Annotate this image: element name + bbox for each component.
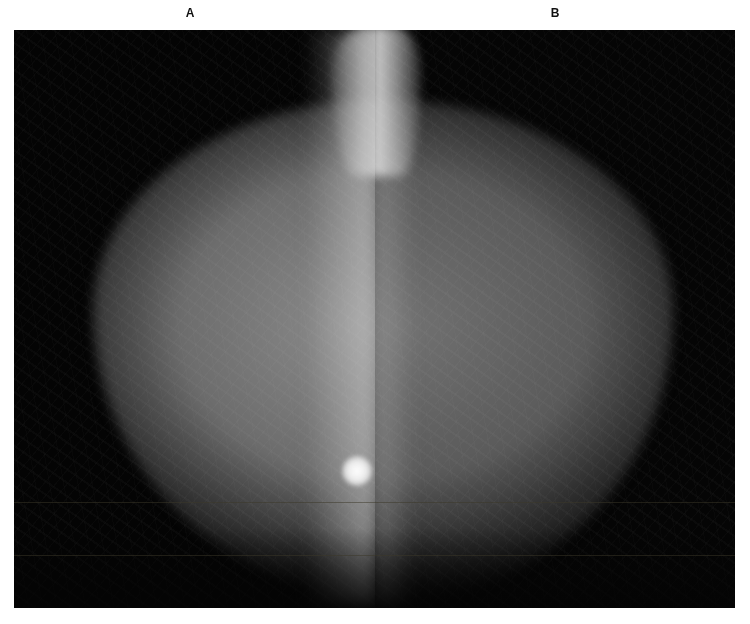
mass-lesion: [342, 456, 372, 486]
bottom-shade-a: [14, 528, 375, 608]
bottom-shade-b: [375, 528, 735, 608]
panel-label-a: A: [180, 6, 200, 20]
mammogram-figure: [14, 30, 735, 608]
fibroglandular-texture-a: [14, 30, 375, 608]
mammogram-panel-b: [375, 30, 735, 608]
mammogram-panel-a: [14, 30, 375, 608]
scan-artifact-line: [14, 555, 735, 556]
panel-label-b: B: [545, 6, 565, 20]
scan-artifact-line: [14, 502, 735, 503]
fibroglandular-texture-b: [375, 30, 735, 608]
